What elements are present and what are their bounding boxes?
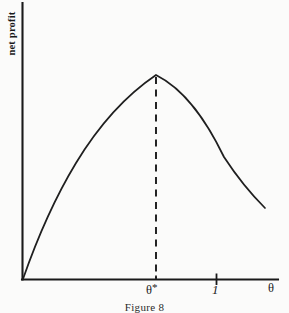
figure-caption: Figure 8 bbox=[0, 301, 289, 313]
net-profit-curve bbox=[23, 75, 265, 279]
x-tick-label-theta-star: θ* bbox=[146, 281, 157, 298]
y-axis-label: net profit bbox=[6, 4, 17, 64]
x-tick-label-one: 1 bbox=[212, 282, 219, 298]
x-axis-label-theta: θ bbox=[268, 281, 274, 296]
theta-star-asterisk: * bbox=[152, 281, 157, 293]
